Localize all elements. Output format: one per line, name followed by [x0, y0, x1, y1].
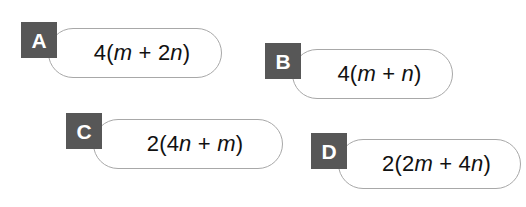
option-expression-c: 2(4n + m): [133, 133, 244, 155]
answer-options-group: A 4(m + 2n) B 4(m + n) C 2(4n + m) D 2(2…: [0, 0, 526, 207]
option-pill-a[interactable]: 4(m + 2n): [48, 28, 222, 78]
option-expression-b: 4(m + n): [323, 63, 421, 85]
option-pill-d[interactable]: 2(2m + 4n): [338, 139, 521, 189]
option-expression-a: 4(m + 2n): [80, 42, 191, 64]
option-pill-c[interactable]: 2(4n + m): [93, 119, 283, 169]
option-letter-badge-b: B: [265, 43, 301, 79]
option-letter-badge-d: D: [311, 133, 347, 169]
option-letter-badge-a: A: [21, 22, 57, 58]
option-pill-b[interactable]: 4(m + n): [292, 49, 453, 99]
option-expression-d: 2(2m + 4n): [368, 153, 491, 175]
option-letter-badge-c: C: [66, 113, 102, 149]
